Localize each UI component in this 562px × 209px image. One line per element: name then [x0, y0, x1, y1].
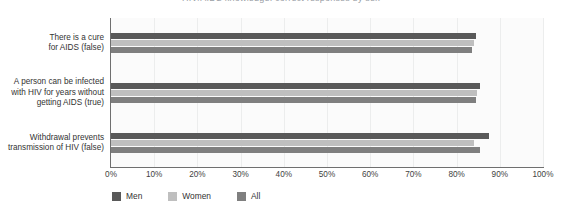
- bar: [111, 140, 474, 146]
- category-labels: There is a cure for AIDS (false)A person…: [0, 18, 104, 168]
- legend-swatch-icon: [112, 192, 121, 201]
- legend-item[interactable]: All: [237, 192, 260, 201]
- x-tick-label: 10%: [137, 170, 171, 179]
- legend-label: Men: [126, 192, 142, 201]
- x-tick-label: 30%: [224, 170, 258, 179]
- bar: [111, 40, 474, 46]
- x-tick-label: 50%: [310, 170, 344, 179]
- x-tick-label: 70%: [396, 170, 430, 179]
- legend-swatch-icon: [237, 192, 246, 201]
- x-tick-label: 90%: [483, 170, 517, 179]
- x-tick-label: 100%: [526, 170, 560, 179]
- legend-item[interactable]: Men: [112, 192, 142, 201]
- x-tick-label: 0%: [94, 170, 128, 179]
- chart-title-strip: HIV/AIDS knowledge: correct responses by…: [0, 0, 562, 6]
- x-tick-label: 80%: [440, 170, 474, 179]
- bar: [111, 147, 480, 153]
- gridline: [500, 18, 501, 168]
- x-tick-label: 40%: [267, 170, 301, 179]
- x-axis-line: [110, 167, 544, 168]
- gridline: [543, 18, 544, 168]
- bar: [111, 90, 477, 96]
- chart-title: HIV/AIDS knowledge: correct responses by…: [182, 0, 380, 3]
- category-label: Withdrawal prevents transmission of HIV …: [0, 133, 104, 154]
- legend-label: Women: [182, 192, 211, 201]
- bar: [111, 97, 476, 103]
- bar: [111, 83, 480, 89]
- legend-item[interactable]: Women: [168, 192, 211, 201]
- x-tick-label: 60%: [353, 170, 387, 179]
- legend-label: All: [251, 192, 260, 201]
- category-label: A person can be infected with HIV for ye…: [0, 77, 104, 108]
- x-tick-label: 20%: [180, 170, 214, 179]
- chart-legend: MenWomenAll: [112, 190, 286, 202]
- bar: [111, 133, 489, 139]
- bar: [111, 47, 472, 53]
- bar: [111, 33, 476, 39]
- legend-swatch-icon: [168, 192, 177, 201]
- bar-chart: HIV/AIDS knowledge: correct responses by…: [0, 0, 562, 209]
- category-label: There is a cure for AIDS (false): [0, 33, 104, 54]
